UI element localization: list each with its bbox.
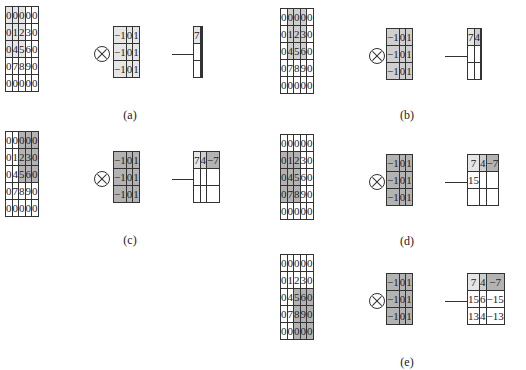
matrix-cell: 3 <box>25 149 32 166</box>
matrix-cell: 0 <box>25 132 32 149</box>
matrix-cell: 0 <box>126 169 133 186</box>
matrix-cell: 0 <box>19 7 26 24</box>
matrix-cell: 4 <box>287 289 294 306</box>
matrix-cell: 0 <box>32 58 39 75</box>
matrix-cell: 8 <box>294 60 301 77</box>
matrix-cell: 0 <box>307 60 314 77</box>
matrix-cell: 0 <box>6 41 13 58</box>
matrix-cell: 0 <box>300 77 307 94</box>
matrix-cell: 1 <box>406 308 413 325</box>
matrix-cell: 3 <box>300 272 307 289</box>
matrix-cell: 0 <box>25 75 32 92</box>
matrix-cell: 0 <box>281 203 288 220</box>
matrix-cell: 0 <box>399 63 406 80</box>
matrix-cell: 0 <box>307 306 314 323</box>
matrix-cell: 0 <box>294 135 301 152</box>
matrix-cell: 8 <box>19 183 26 200</box>
matrix-cell: 0 <box>12 200 19 217</box>
matrix-cell: 0 <box>281 135 288 152</box>
convolution-operator-icon <box>94 46 110 62</box>
matrix-cell: 1 <box>287 152 294 169</box>
matrix-cell <box>207 186 220 203</box>
matrix-cell: 0 <box>307 289 314 306</box>
matrix-cell: −1 <box>114 152 127 169</box>
output-matrix: 74−7156−15134−13 <box>467 273 505 325</box>
matrix-cell: 0 <box>32 183 39 200</box>
matrix-cell: −7 <box>207 152 220 169</box>
matrix-cell <box>201 44 202 61</box>
matrix-cell: 9 <box>300 186 307 203</box>
matrix-cell: 0 <box>307 272 314 289</box>
matrix-cell: 1 <box>12 149 19 166</box>
matrix-cell: 4 <box>474 29 481 46</box>
matrix-cell: 0 <box>32 41 39 58</box>
matrix-cell: 1 <box>406 29 413 46</box>
matrix-cell: −1 <box>387 189 400 206</box>
matrix-cell: 0 <box>19 75 26 92</box>
matrix-cell: 6 <box>300 169 307 186</box>
matrix-cell: 4 <box>480 308 487 325</box>
matrix-cell: 0 <box>126 61 133 78</box>
output-matrix: 74−715 <box>467 154 499 206</box>
matrix-cell <box>468 189 480 206</box>
matrix-cell: 5 <box>19 41 26 58</box>
matrix-cell: 6 <box>25 41 32 58</box>
matrix-cell: 0 <box>281 272 288 289</box>
matrix-cell: 0 <box>281 9 288 26</box>
matrix-cell <box>486 172 499 189</box>
matrix-cell: 5 <box>294 289 301 306</box>
matrix-cell: 0 <box>307 186 314 203</box>
matrix-cell: −1 <box>114 27 127 44</box>
matrix-cell: −1 <box>387 291 400 308</box>
matrix-cell: 0 <box>399 172 406 189</box>
matrix-cell: 0 <box>32 149 39 166</box>
matrix-cell <box>481 29 482 46</box>
matrix-cell: 1 <box>406 63 413 80</box>
matrix-cell: 15 <box>468 172 480 189</box>
matrix-cell: 3 <box>300 152 307 169</box>
input-matrix: 0000001230045600789000000 <box>280 134 314 220</box>
matrix-cell <box>481 46 482 63</box>
matrix-cell: −1 <box>114 169 127 186</box>
matrix-cell <box>201 27 202 44</box>
matrix-cell: 0 <box>281 60 288 77</box>
matrix-cell: 4 <box>12 166 19 183</box>
matrix-cell: 0 <box>281 255 288 272</box>
panel-label: (b) <box>392 108 422 123</box>
matrix-cell: 1 <box>133 44 140 61</box>
matrix-cell: −7 <box>486 155 499 172</box>
kernel-matrix: −101−101−101 <box>386 273 413 325</box>
matrix-cell: 0 <box>6 58 13 75</box>
matrix-cell: 4 <box>480 274 487 291</box>
matrix-cell: 6 <box>25 166 32 183</box>
matrix-cell: 0 <box>6 183 13 200</box>
matrix-cell: 0 <box>307 9 314 26</box>
matrix-cell: 0 <box>307 43 314 60</box>
matrix-cell <box>207 169 220 186</box>
matrix-cell: 3 <box>300 26 307 43</box>
matrix-cell: 0 <box>294 323 301 340</box>
matrix-cell: 0 <box>300 135 307 152</box>
matrix-cell: −1 <box>387 46 400 63</box>
matrix-cell: 7 <box>468 155 480 172</box>
matrix-cell: 7 <box>468 29 475 46</box>
matrix-cell: 7 <box>194 152 201 169</box>
matrix-cell: 0 <box>281 43 288 60</box>
matrix-cell: 0 <box>6 149 13 166</box>
matrix-cell: −1 <box>387 308 400 325</box>
matrix-cell: 0 <box>294 203 301 220</box>
matrix-cell: 0 <box>281 289 288 306</box>
matrix-cell: 0 <box>6 24 13 41</box>
matrix-cell: 0 <box>32 200 39 217</box>
matrix-cell: 2 <box>294 152 301 169</box>
output-matrix: 7 <box>193 26 203 78</box>
matrix-cell: 9 <box>300 60 307 77</box>
matrix-cell: 1 <box>406 155 413 172</box>
matrix-cell: 0 <box>399 29 406 46</box>
matrix-cell: 0 <box>12 132 19 149</box>
matrix-cell: 1 <box>406 46 413 63</box>
matrix-cell: 0 <box>281 152 288 169</box>
matrix-cell: 0 <box>25 7 32 24</box>
panel-label: (e) <box>392 355 422 370</box>
panel-label: (c) <box>115 233 145 248</box>
